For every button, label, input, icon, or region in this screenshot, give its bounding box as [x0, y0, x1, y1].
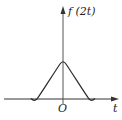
signal-plot: f (2t) t O — [0, 0, 122, 120]
x-axis — [4, 97, 119, 102]
y-axis — [61, 6, 66, 104]
x-axis-label: t — [113, 103, 117, 114]
x-axis-arrow-icon — [111, 97, 119, 102]
y-axis-arrow-icon — [61, 6, 66, 14]
origin-label: O — [58, 103, 67, 114]
y-axis-label: f (2t) — [68, 6, 96, 17]
